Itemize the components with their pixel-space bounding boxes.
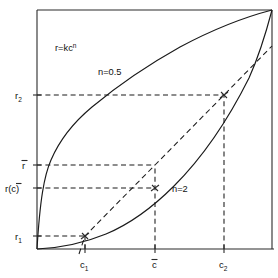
y-label-r1: r1 [15,231,22,244]
curve-label-n-2: n=2 [172,184,188,194]
plot-figure: r2 r r(c) r1 c1 c c2 [0,0,278,278]
x-label-cbar: c [152,259,157,270]
intersection-markers-group [81,92,228,239]
y-tick-labels-group: r2 r r(c) r1 [5,90,28,244]
y-label-rbar: r [22,160,25,171]
x-label-c1: c1 [80,259,89,272]
plot-svg: r2 r r(c) r1 c1 c c2 [0,0,278,278]
y-label-r2: r2 [15,90,22,103]
y-label-rcbar: r(c) [5,183,19,194]
equation-annotation: r=kcn [55,42,77,53]
annotations-group: r=kcn n=0.5 n=2 [55,42,188,194]
x-label-c2: c2 [219,259,228,272]
x-tick-labels-group: c1 c c2 [80,259,228,272]
guide-lines-group [37,95,224,249]
curve-label-n-0point5: n=0.5 [98,67,122,77]
secant-chord-line [79,46,272,254]
